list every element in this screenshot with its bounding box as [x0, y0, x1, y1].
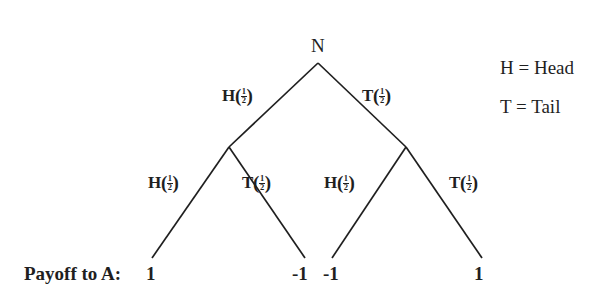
probability-fraction: 12	[379, 88, 384, 105]
probability-fraction: 12	[343, 175, 348, 192]
payoff-leaf-1: 1	[146, 264, 156, 283]
edge-left-node-to-leaf-2	[229, 147, 305, 258]
branch-action-letter: H	[222, 86, 235, 105]
fraction-denominator: 2	[343, 184, 348, 192]
paren-close: )	[349, 172, 355, 193]
branch-action-letter: H	[148, 173, 161, 192]
fraction-denominator: 2	[259, 184, 264, 192]
paren-close: )	[247, 85, 253, 106]
probability-fraction: 12	[259, 175, 264, 192]
fraction-denominator: 2	[241, 97, 246, 105]
branch-label-level2-left-tail: T(12)	[242, 172, 271, 192]
paren-close: )	[385, 85, 391, 106]
edge-right-node-to-leaf-3	[332, 147, 406, 258]
branch-label-level2-right-head: H(12)	[324, 172, 355, 192]
edge-left-node-to-leaf-1	[152, 147, 229, 258]
branch-action-letter: T	[449, 173, 460, 192]
edge-right-node-to-leaf-4	[406, 147, 482, 258]
probability-fraction: 12	[241, 88, 246, 105]
branch-action-letter: T	[362, 86, 373, 105]
payoff-row-label: Payoff to A:	[24, 264, 121, 283]
fraction-denominator: 2	[466, 184, 471, 192]
payoff-leaf-2: -1	[292, 264, 308, 283]
legend-head-definition: H = Head	[500, 58, 574, 77]
paren-close: )	[265, 172, 271, 193]
paren-close: )	[472, 172, 478, 193]
tree-edges	[0, 0, 602, 302]
fraction-denominator: 2	[167, 184, 172, 192]
branch-action-letter: H	[324, 173, 337, 192]
probability-fraction: 12	[466, 175, 471, 192]
game-tree-diagram: N H(12) T(12) H(12) T(12) H(12) T(12) Pa…	[0, 0, 602, 302]
root-node-label: N	[311, 36, 325, 55]
probability-fraction: 12	[167, 175, 172, 192]
branch-action-letter: T	[242, 173, 253, 192]
branch-label-level2-right-tail: T(12)	[449, 172, 478, 192]
branch-label-level1-head: H(12)	[222, 85, 253, 105]
branch-label-level1-tail: T(12)	[362, 85, 391, 105]
paren-close: )	[173, 172, 179, 193]
branch-label-level2-left-head: H(12)	[148, 172, 179, 192]
fraction-denominator: 2	[379, 97, 384, 105]
payoff-leaf-4: 1	[474, 264, 484, 283]
legend-tail-definition: T = Tail	[500, 97, 560, 116]
payoff-leaf-3: -1	[323, 264, 339, 283]
